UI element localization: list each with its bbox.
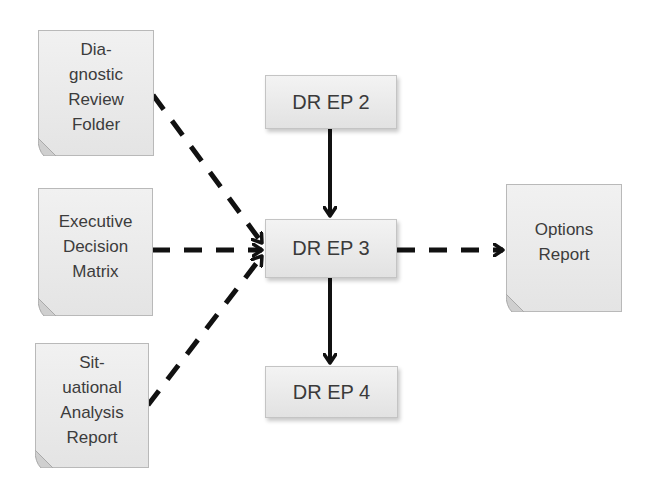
process-dr-ep-4: DR EP 4 <box>265 366 398 418</box>
node-label: Executive Decision Matrix <box>59 209 133 284</box>
document-options-report: Options Report <box>506 184 622 312</box>
page-curl-icon <box>35 450 53 468</box>
page-curl-icon <box>38 138 56 156</box>
node-label: Dia- gnostic Review Folder <box>68 37 124 137</box>
node-label: DR EP 4 <box>293 381 370 404</box>
process-dr-ep-2: DR EP 2 <box>265 75 397 129</box>
edge-situational-to-ep3 <box>148 256 262 405</box>
page-curl-icon <box>506 294 524 312</box>
node-label: Sit- uational Analysis Report <box>60 350 123 450</box>
process-dr-ep-3: DR EP 3 <box>265 219 397 278</box>
document-executive-decision-matrix: Executive Decision Matrix <box>38 188 153 316</box>
edge-diagnostic-to-ep3 <box>153 95 262 243</box>
page-curl-icon <box>38 298 56 316</box>
node-label: Options Report <box>535 217 594 267</box>
node-label: DR EP 3 <box>292 237 369 260</box>
node-label: DR EP 2 <box>292 91 369 114</box>
